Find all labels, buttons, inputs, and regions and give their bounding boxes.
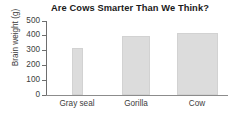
y-tick-label: 300	[26, 45, 40, 54]
bar-chart-figure: Are Cows Smarter Than We Think? Brain we…	[0, 0, 236, 129]
x-axis-tick-labels: Gray sealGorillaCow	[46, 99, 228, 113]
y-tick-label: 200	[26, 60, 40, 69]
bars-layer	[46, 21, 228, 95]
x-axis-line	[46, 95, 228, 96]
y-tick-label: 0	[35, 90, 40, 99]
x-tick-label: Gorilla	[124, 99, 148, 108]
bar	[177, 33, 218, 95]
bar	[122, 36, 150, 95]
chart-title: Are Cows Smarter Than We Think?	[30, 3, 230, 13]
y-tick-label: 100	[26, 75, 40, 84]
x-tick-label: Cow	[189, 99, 205, 108]
y-axis-label: Brain weight (g)	[11, 0, 20, 77]
y-tick-label: 400	[26, 30, 40, 39]
plot-area: 0100200300400500	[46, 21, 228, 95]
bar	[72, 48, 83, 95]
x-tick-label: Gray seal	[59, 99, 94, 108]
y-tick-label: 500	[26, 16, 40, 25]
